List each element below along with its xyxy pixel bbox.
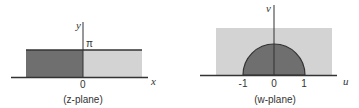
tick-label-0: 0	[271, 78, 277, 89]
w-plane-panel: v -1 0 1 u (w-plane)	[200, 2, 349, 105]
x-axis-label: x	[150, 75, 156, 87]
origin-label: 0	[80, 79, 86, 90]
z-plane-panel: y π 0 x (z-plane)	[11, 19, 156, 105]
v-axis-label: v	[266, 2, 271, 14]
w-plane-caption: (w-plane)	[254, 94, 296, 105]
z-plane-caption: (z-plane)	[63, 94, 102, 105]
tick-label-1: 1	[301, 78, 307, 89]
pi-label: π	[86, 38, 93, 49]
conformal-map-diagram: y π 0 x (z-plane) v -1 0 1 u (w-plane)	[0, 0, 359, 108]
tick-label-neg1: -1	[239, 78, 248, 89]
y-axis-label: y	[75, 19, 81, 31]
left-half-strip	[26, 50, 83, 77]
right-half-strip	[83, 50, 142, 77]
u-axis-label: u	[343, 75, 349, 87]
